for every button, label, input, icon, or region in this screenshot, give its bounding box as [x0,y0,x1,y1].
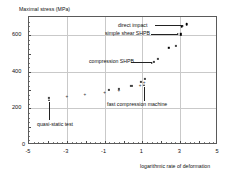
y-tick-label: 600 [12,31,21,37]
x-tick-label: 1 [140,148,143,154]
y-tick-label: 0 [22,141,25,147]
data-point-filled [168,47,170,49]
annotation-arrow-fast-compression [144,87,145,101]
gridline-horizontal [29,108,216,109]
annotation-quasi-static-test: quasi-static test [37,121,73,127]
data-point-plus [117,89,120,92]
data-point-open [175,45,177,47]
y-tick-label: 400 [12,68,21,74]
annotation-direct-impact: direct impact [118,22,147,28]
data-point-plus [103,91,106,94]
x-tick-label: -3 [63,148,68,154]
annotation-arrow-simple-shear [151,34,178,35]
annotation-simple-shear-shpb: simple shear SHPB [105,30,150,36]
x-tick-label: -5 [26,148,31,154]
y-tick-label: 200 [12,104,21,110]
y-axis-title: Maximal stress (MPa) [19,6,70,12]
data-point-plus [65,95,68,98]
plot-area: direct impact simple shear SHPB compress… [28,16,217,144]
data-point-plus [83,94,86,97]
annotation-arrow-direct-impact [155,25,183,26]
data-point-open [153,61,155,63]
annotation-arrow-compression-shpb [131,62,152,63]
chart-figure: Maximal stress (MPa) [0,0,241,176]
data-point-plus [138,84,141,87]
annotation-arrow-quasi-static [49,102,50,120]
annotation-fast-compression-machine: fast compression machine [107,101,167,107]
x-tick-label: 3 [178,148,181,154]
data-point-filled [185,23,188,26]
data-point-open [157,58,159,60]
annotation-compression-shpb: compression SHPB [89,58,134,64]
x-tick-label: 5 [215,148,218,154]
data-point-open [108,89,110,91]
data-point-filled [180,33,182,35]
x-axis-title: logarithmic rate of deformation [140,163,210,169]
gridline-horizontal [29,72,216,73]
data-point-open [130,85,132,87]
x-tick-label: -1 [101,148,106,154]
